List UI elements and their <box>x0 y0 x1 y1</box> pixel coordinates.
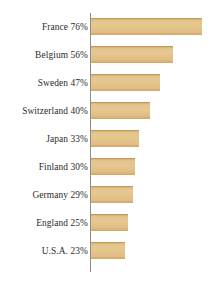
bar-chart: France 76% Belgium 56% Sweden 47% Switze… <box>0 0 221 283</box>
bar-row: Belgium 56% <box>0 46 221 63</box>
bar-label: Switzerland 40% <box>22 105 88 116</box>
bar-belgium <box>91 46 173 63</box>
bar-usa <box>91 242 125 259</box>
bar-label: France 76% <box>42 21 88 32</box>
bar-label: Germany 29% <box>32 189 88 200</box>
bar-label: England 25% <box>36 217 88 228</box>
bar-label: Finland 30% <box>39 161 88 172</box>
bar-sweden <box>91 74 160 91</box>
bar-row: Japan 33% <box>0 130 221 147</box>
bar-label: Japan 33% <box>46 133 88 144</box>
bar-label: U.S.A. 23% <box>42 245 88 256</box>
bar-row: Germany 29% <box>0 186 221 203</box>
bar-label: Sweden 47% <box>38 77 88 88</box>
bar-row: U.S.A. 23% <box>0 242 221 259</box>
bar-row: England 25% <box>0 214 221 231</box>
bar-switzerland <box>91 102 150 119</box>
plot-area: France 76% Belgium 56% Sweden 47% Switze… <box>0 0 221 283</box>
bar-label: Belgium 56% <box>35 49 88 60</box>
bar-row: Finland 30% <box>0 158 221 175</box>
bar-germany <box>91 186 133 203</box>
bar-row: Sweden 47% <box>0 74 221 91</box>
bar-row: Switzerland 40% <box>0 102 221 119</box>
bar-finland <box>91 158 135 175</box>
bar-france <box>91 18 202 35</box>
bar-england <box>91 214 128 231</box>
bar-row: France 76% <box>0 18 221 35</box>
bar-japan <box>91 130 139 147</box>
